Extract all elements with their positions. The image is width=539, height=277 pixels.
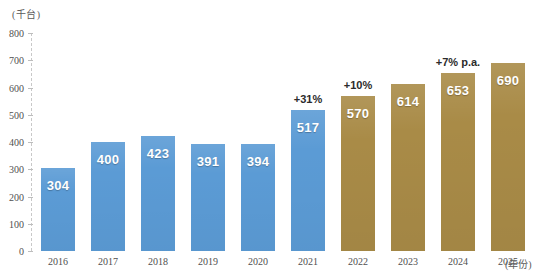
- bar-value-label: 653: [441, 83, 475, 98]
- y-axis-tick-label: 300: [0, 164, 24, 175]
- x-axis-tick-label: 2016: [48, 256, 68, 267]
- bar-group[interactable]: 614: [391, 84, 425, 251]
- bar-group[interactable]: 304: [41, 168, 75, 251]
- bar-group[interactable]: 391: [191, 144, 225, 251]
- x-axis-tick-label: 2024: [448, 256, 468, 267]
- x-axis-unit-label: (年份): [505, 256, 532, 271]
- bar-value-label: 614: [391, 94, 425, 109]
- bar-value-label: 690: [491, 73, 525, 88]
- bar-group[interactable]: 423: [141, 136, 175, 251]
- bar-group[interactable]: 653+7% p.a.: [441, 73, 475, 251]
- y-axis-tick-label: 500: [0, 109, 24, 120]
- bar-chart: (千台) 8007006005004003002001000 304400423…: [0, 0, 539, 277]
- bar[interactable]: [441, 73, 475, 251]
- bar-group[interactable]: 570+10%: [341, 96, 375, 251]
- y-axis-unit-label: (千台): [12, 6, 41, 21]
- x-axis-tick-label: 2023: [398, 256, 418, 267]
- bar-group[interactable]: 394: [241, 144, 275, 251]
- bar-value-label: 304: [41, 178, 75, 193]
- y-axis-tick-label: 700: [0, 55, 24, 66]
- bar[interactable]: [391, 84, 425, 251]
- x-axis-tick-label: 2022: [348, 256, 368, 267]
- bar-annotation: +7% p.a.: [431, 56, 485, 68]
- bar-value-label: 423: [141, 146, 175, 161]
- x-axis-tick-label: 2020: [248, 256, 268, 267]
- x-axis-tick-label: 2018: [148, 256, 168, 267]
- bar-value-label: 394: [241, 154, 275, 169]
- plot-area: 304400423391394517+31%570+10%614653+7% p…: [31, 33, 531, 251]
- x-axis-tick-label: 2019: [198, 256, 218, 267]
- bar-value-label: 400: [91, 152, 125, 167]
- y-axis-tick-mark: [28, 251, 33, 252]
- bar-group[interactable]: 517+31%: [291, 110, 325, 251]
- bar-annotation: +10%: [331, 79, 385, 91]
- bar-annotation: +31%: [281, 93, 335, 105]
- x-axis-tick-label: 2017: [98, 256, 118, 267]
- y-axis-tick-label: 0: [0, 246, 24, 257]
- bar[interactable]: [491, 63, 525, 251]
- y-axis-tick-label: 200: [0, 191, 24, 202]
- y-axis-tick-label: 800: [0, 28, 24, 39]
- bar-group[interactable]: 400: [91, 142, 125, 251]
- bar-value-label: 517: [291, 120, 325, 135]
- x-axis-tick-label: 2021: [298, 256, 318, 267]
- bar-value-label: 570: [341, 106, 375, 121]
- y-axis-tick-label: 100: [0, 218, 24, 229]
- y-axis-tick-label: 600: [0, 82, 24, 93]
- bar-group[interactable]: 690: [491, 63, 525, 251]
- bar-value-label: 391: [191, 154, 225, 169]
- y-axis-tick-label: 400: [0, 137, 24, 148]
